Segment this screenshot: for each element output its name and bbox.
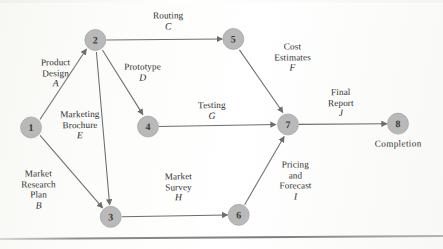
edge-label-B-line3: Plan xyxy=(30,190,47,200)
edge-G-4-to-7 xyxy=(159,125,276,127)
completion-label: Completion xyxy=(362,138,434,149)
node-7[interactable]: 7 xyxy=(277,114,298,135)
node-6[interactable]: 6 xyxy=(228,204,249,225)
network-diagram: 1 2 3 4 5 6 7 xyxy=(0,0,443,249)
node-7-label: 7 xyxy=(285,119,290,130)
edge-label-A-line1: Product xyxy=(41,57,70,67)
edge-label-J-line1: Final xyxy=(331,87,350,97)
edge-label-H-line2: Survey xyxy=(165,182,192,192)
edge-label-F-line1: Cost xyxy=(284,41,301,51)
edge-code-B: B xyxy=(9,200,69,211)
edge-label-F: Cost Estimates F xyxy=(261,41,323,73)
edge-code-I: I xyxy=(266,191,326,202)
edge-label-B-line2: Research xyxy=(21,179,56,189)
edge-label-I-line3: Forecast xyxy=(279,180,311,190)
edge-label-H: Market Survey H xyxy=(150,171,206,203)
edge-label-H-line1: Market xyxy=(165,171,192,181)
edge-label-A-line2: Design xyxy=(42,68,69,78)
edge-J-7-to-8 xyxy=(299,124,387,125)
edge-code-A: A xyxy=(28,78,84,89)
edge-code-J: J xyxy=(314,108,368,119)
edge-H-3-to-6 xyxy=(122,215,228,217)
edge-label-C-line1: Routing xyxy=(153,10,183,20)
edge-label-G: Testing G xyxy=(185,100,239,122)
edge-label-E-line1: Marketing xyxy=(60,109,99,119)
edge-label-J-line2: Report xyxy=(328,98,354,108)
edge-label-B-line1: Market xyxy=(25,168,52,178)
edge-label-I-line2: and xyxy=(289,170,303,180)
edge-code-C: C xyxy=(137,21,199,32)
node-3-label: 3 xyxy=(108,211,113,222)
node-3[interactable]: 3 xyxy=(100,206,121,227)
edge-label-G-line1: Testing xyxy=(198,100,226,110)
edge-label-I: Pricing and Forecast I xyxy=(265,159,325,202)
node-2[interactable]: 2 xyxy=(85,29,106,50)
node-8[interactable]: 8 xyxy=(387,113,408,134)
node-1-label: 1 xyxy=(28,122,33,133)
edge-label-D-line1: Prototype xyxy=(124,61,161,71)
edge-code-E: E xyxy=(47,130,113,141)
node-6-label: 6 xyxy=(236,209,241,220)
edge-code-G: G xyxy=(185,110,239,121)
edge-label-B: Market Research Plan B xyxy=(8,168,68,211)
node-5-label: 5 xyxy=(231,33,236,44)
node-1[interactable]: 1 xyxy=(20,117,41,138)
node-4[interactable]: 4 xyxy=(137,116,158,137)
edge-label-I-line1: Pricing xyxy=(282,159,309,169)
node-8-label: 8 xyxy=(395,118,400,129)
edge-label-D: Prototype D xyxy=(112,61,174,83)
edge-code-D: D xyxy=(112,72,174,83)
edge-label-A: Product Design A xyxy=(27,57,83,89)
edge-label-C: Routing C xyxy=(137,10,199,32)
node-5[interactable]: 5 xyxy=(223,28,244,49)
node-4-label: 4 xyxy=(145,121,150,132)
edge-code-F: F xyxy=(262,62,324,73)
edge-C-2-to-5 xyxy=(106,39,222,40)
edge-code-H: H xyxy=(151,192,207,203)
node-2-label: 2 xyxy=(93,34,98,45)
edge-label-J: Final Report J xyxy=(314,87,368,119)
edge-label-E: Marketing Brochure E xyxy=(47,109,113,141)
figure-canvas: 1 2 3 4 5 6 7 xyxy=(0,0,443,249)
